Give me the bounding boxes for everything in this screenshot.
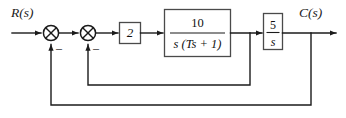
input-label: R(s) bbox=[11, 6, 34, 20]
plant-numerator: 10 bbox=[165, 17, 231, 30]
output-label: C(s) bbox=[299, 6, 322, 20]
gain-block-label: 2 bbox=[120, 26, 141, 39]
integrator-denominator: s bbox=[264, 36, 283, 48]
sum1-minus-sign: – bbox=[56, 42, 62, 54]
sum2-minus-sign: – bbox=[93, 42, 99, 54]
integrator-numerator: 5 bbox=[264, 19, 283, 31]
plant-denominator: s (Ts + 1) bbox=[165, 38, 231, 51]
block-diagram: R(s) C(s) – – 2 10 s (Ts + 1) 5 s bbox=[0, 0, 346, 118]
